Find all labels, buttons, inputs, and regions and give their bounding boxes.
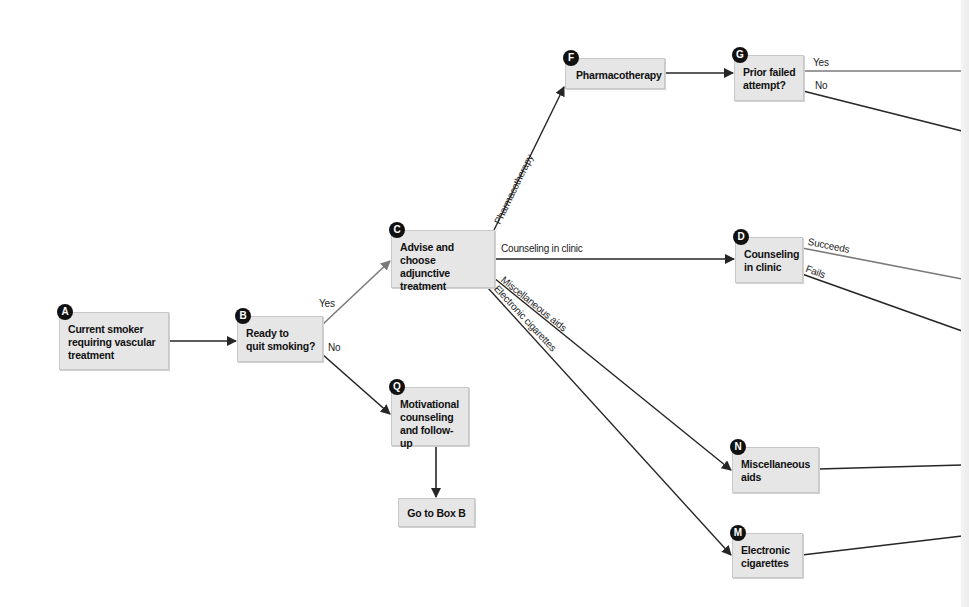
label-b-no: No	[328, 342, 340, 353]
edge-g-no	[803, 91, 962, 131]
edge-m-out	[802, 536, 962, 555]
edge-b-to-q	[322, 354, 390, 414]
page-gutter	[961, 0, 969, 607]
edge-d-fails	[802, 274, 962, 331]
node-gotob-text: Go to Box B	[403, 507, 470, 520]
badge-q: Q	[389, 379, 405, 395]
node-c-text: Advise and choose adjunctive treatment	[400, 241, 488, 293]
label-b-yes: Yes	[319, 298, 335, 309]
node-d-counseling: D Counseling in clinic	[735, 237, 803, 283]
node-b-text: Ready to quit smoking?	[246, 327, 316, 353]
node-g-text: Prior failed attempt?	[743, 66, 797, 92]
node-q-text: Motivational counseling and follow-up	[400, 398, 462, 450]
node-n-misc-aids: N Miscellaneous aids	[732, 447, 819, 493]
badge-g: G	[732, 47, 748, 63]
node-f-text: Pharmacotherapy	[576, 69, 658, 82]
badge-c: C	[389, 222, 405, 238]
edge-b-to-c	[322, 261, 390, 325]
node-go-to-box-b: Go to Box B	[398, 498, 475, 527]
badge-d: D	[733, 229, 749, 245]
node-a-text: Current smoker requiring vascular treatm…	[68, 323, 162, 362]
node-d-text: Counseling in clinic	[744, 248, 796, 274]
edge-d-succeeds	[802, 248, 962, 279]
node-g-prior-failed: G Prior failed attempt?	[734, 55, 804, 101]
label-g-no: No	[815, 80, 827, 91]
node-m-ecigs: M Electronic cigarettes	[732, 533, 803, 578]
badge-m: M	[730, 525, 746, 541]
node-q-motivational: Q Motivational counseling and follow-up	[391, 387, 469, 446]
node-n-text: Miscellaneous aids	[741, 458, 812, 484]
node-f-pharmacotherapy: F Pharmacotherapy	[565, 58, 665, 89]
edge-n-out	[818, 465, 962, 469]
badge-b: B	[235, 308, 251, 324]
node-a-current-smoker: A Current smoker requiring vascular trea…	[59, 312, 169, 370]
node-m-text: Electronic cigarettes	[741, 544, 796, 570]
edge-layer	[0, 0, 969, 607]
label-c-counseling: Counseling in clinic	[501, 243, 583, 254]
badge-n: N	[730, 439, 746, 455]
edge-c-to-m	[488, 288, 731, 555]
node-b-ready-to-quit: B Ready to quit smoking?	[237, 316, 323, 362]
badge-f: F	[563, 50, 579, 66]
node-c-advise: C Advise and choose adjunctive treatment	[391, 230, 495, 288]
label-g-yes: Yes	[813, 57, 829, 68]
badge-a: A	[57, 304, 73, 320]
